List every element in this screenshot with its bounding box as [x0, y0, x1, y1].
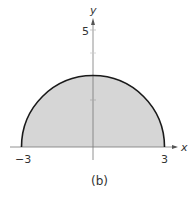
semicircle-chart: y x 5 −3 3 (b) — [0, 0, 196, 197]
y-tick-label-5: 5 — [82, 25, 89, 38]
y-axis-label: y — [89, 4, 97, 17]
x-axis-arrow-icon — [172, 145, 178, 149]
x-tick-label-3: 3 — [161, 153, 168, 166]
y-axis-arrow-icon — [91, 18, 95, 25]
x-axis-label: x — [180, 141, 188, 154]
figure-caption: (b) — [91, 174, 108, 188]
x-tick-label-neg3: −3 — [15, 153, 31, 166]
